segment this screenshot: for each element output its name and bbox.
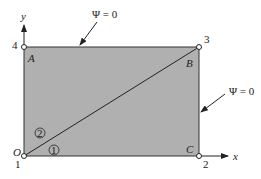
node-1-label: 1 [15, 158, 21, 170]
corner-origin-label: O [13, 146, 21, 158]
corner-b-label: B [186, 57, 193, 69]
node-3-marker [197, 45, 202, 50]
corner-c-label: C [186, 143, 194, 155]
x-axis-label: x [232, 150, 238, 162]
node-2-label: 2 [203, 158, 209, 170]
corner-a-label: A [27, 52, 35, 64]
node-4-marker [22, 45, 27, 50]
bc-top-arrow [80, 22, 97, 45]
node-4-label: 4 [12, 39, 18, 51]
bc-right-label: Ψ = 0 [229, 85, 255, 97]
element-2-label: 2 [37, 127, 43, 139]
element-1-label: 1 [51, 144, 57, 156]
node-2-marker [197, 154, 202, 159]
bc-top-label: Ψ = 0 [92, 8, 118, 20]
finite-element-diagram: y x 1 2 3 4 O A B C 2 1 Ψ = 0 Ψ = 0 [0, 0, 261, 179]
y-axis-label: y [20, 10, 26, 22]
bc-right-arrow [201, 94, 225, 112]
node-1-marker [22, 154, 27, 159]
node-3-label: 3 [204, 33, 210, 45]
